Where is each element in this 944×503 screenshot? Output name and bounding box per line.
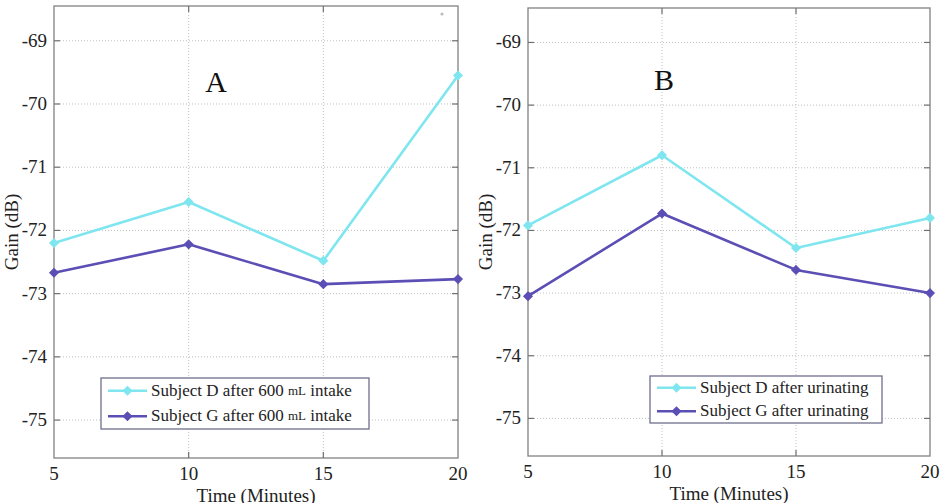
x-axis-title-b: Time (Minutes): [669, 483, 788, 503]
y-axis-title-b: Gain (dB): [475, 194, 497, 271]
x-tick-label-3: 20: [449, 463, 468, 484]
y-tick-label-4: -73: [22, 283, 47, 304]
legend-label-1: Subject G after 600 mL intake: [151, 406, 352, 425]
y-tick-label-3: -72: [22, 219, 47, 240]
chart-panel-b: -69-70-71-72-73-74-755101520Time (Minute…: [472, 0, 944, 503]
legend-a: Subject D after 600 mL intakeSubject G a…: [101, 378, 369, 429]
x-axis-title-a: Time (Minutes): [196, 485, 315, 503]
legend-label-0: Subject D after urinating: [700, 378, 869, 397]
x-tick-label-1: 10: [179, 463, 198, 484]
x-tick-label-0: 5: [523, 461, 533, 482]
y-tick-label-5: -74: [22, 346, 48, 367]
panel-letter-a: A: [205, 65, 227, 98]
y-tick-label-5: -74: [496, 345, 522, 366]
y-tick-label-2: -71: [22, 156, 47, 177]
x-tick-label-2: 15: [787, 461, 806, 482]
legend-label-0: Subject D after 600 mL intake: [151, 381, 352, 400]
chart-panel-a: -69-70-71-72-73-74-755101520Time (Minute…: [0, 0, 472, 503]
y-tick-label-0: -69: [22, 30, 47, 51]
y-axis-title-a: Gain (dB): [1, 194, 23, 271]
y-tick-label-4: -73: [496, 282, 521, 303]
panel-letter-b: B: [654, 63, 674, 96]
x-tick-label-3: 20: [921, 461, 940, 482]
chart-svg-b: -69-70-71-72-73-74-755101520Time (Minute…: [472, 0, 944, 503]
y-tick-label-6: -75: [22, 409, 47, 430]
legend-b: Subject D after urinatingSubject G after…: [650, 376, 882, 423]
y-tick-label-3: -72: [496, 219, 521, 240]
chart-svg-a: -69-70-71-72-73-74-755101520Time (Minute…: [0, 0, 472, 503]
figure-root: -69-70-71-72-73-74-755101520Time (Minute…: [0, 0, 944, 503]
image-speck: [440, 12, 443, 15]
y-tick-label-1: -70: [22, 93, 47, 114]
x-tick-label-2: 15: [314, 463, 333, 484]
x-tick-label-0: 5: [49, 463, 59, 484]
x-tick-label-1: 10: [653, 461, 672, 482]
y-tick-label-1: -70: [496, 94, 521, 115]
y-tick-label-0: -69: [496, 31, 521, 52]
y-tick-label-2: -71: [496, 157, 521, 178]
legend-label-1: Subject G after urinating: [700, 401, 869, 420]
y-tick-label-6: -75: [496, 407, 521, 428]
